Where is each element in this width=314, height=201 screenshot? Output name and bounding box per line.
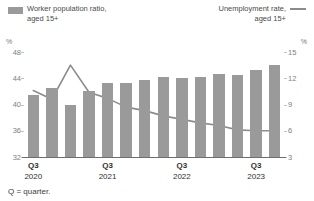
bar (65, 105, 77, 158)
plot-area: 48444036321512963 (24, 52, 284, 157)
x-axis-baseline (22, 157, 286, 158)
left-axis-tickmark (21, 78, 24, 79)
chart-figure: Worker population ratio, aged 15+ Unempl… (0, 0, 314, 201)
x-axis-label-year: 2021 (86, 171, 130, 182)
right-axis-tickmark (284, 52, 287, 53)
left-axis-tick-36: 36 (13, 127, 21, 134)
bar (195, 77, 207, 157)
bar (269, 65, 281, 157)
footnote: Q = quarter. (8, 187, 50, 196)
bar (139, 80, 151, 157)
x-axis-label-year: 2022 (160, 171, 204, 182)
x-axis-label-year: 2020 (11, 171, 55, 182)
x-axis-label: Q32020 (11, 160, 55, 182)
legend-item-unemployment-rate: Unemployment rate, aged 15+ (218, 4, 306, 24)
right-axis-tick-6: 6 (288, 127, 292, 134)
legend-label-line1: Worker population ratio, (27, 4, 107, 13)
right-axis-tickmark (284, 105, 287, 106)
bar (120, 83, 132, 157)
bar (83, 91, 95, 157)
x-axis-label-year: 2023 (234, 171, 278, 182)
bar (102, 83, 114, 157)
legend-label-line2: aged 15+ (27, 14, 59, 23)
chart-legend: Worker population ratio, aged 15+ Unempl… (0, 4, 314, 34)
x-axis-label-quarter: Q3 (86, 160, 130, 171)
bar (28, 95, 40, 157)
bar (213, 74, 225, 157)
left-axis-unit: % (6, 38, 12, 45)
right-axis-tick-9: 9 (288, 101, 292, 108)
bar-swatch-icon (8, 7, 23, 14)
right-axis-tick-15: 15 (288, 49, 296, 56)
left-axis-tickmark (21, 105, 24, 106)
left-axis-tickmark (21, 131, 24, 132)
legend-label-line1: Unemployment rate, (218, 4, 286, 13)
x-axis-label-quarter: Q3 (234, 160, 278, 171)
right-axis-tickmark (284, 131, 287, 132)
bar (176, 78, 188, 157)
unemployment-rate-line (24, 52, 284, 157)
legend-label-unemployment-rate: Unemployment rate, aged 15+ (218, 4, 286, 24)
x-axis-label: Q32022 (160, 160, 204, 182)
bar (158, 77, 170, 157)
x-axis-label: Q32023 (234, 160, 278, 182)
left-axis-tick-48: 48 (13, 49, 21, 56)
left-axis-tick-40: 40 (13, 101, 21, 108)
right-axis-unit: % (301, 38, 307, 45)
right-axis-tickmark (284, 78, 287, 79)
legend-item-worker-population-ratio: Worker population ratio, aged 15+ (8, 4, 107, 24)
left-axis-tick-44: 44 (13, 75, 21, 82)
legend-label-line2: aged 15+ (255, 14, 287, 23)
bar (250, 70, 262, 157)
left-axis-tickmark (21, 52, 24, 53)
x-axis-label-quarter: Q3 (11, 160, 55, 171)
legend-label-worker-population-ratio: Worker population ratio, aged 15+ (27, 4, 107, 24)
x-axis-label: Q32021 (86, 160, 130, 182)
line-swatch-icon (290, 8, 306, 10)
bar (232, 75, 244, 157)
right-axis-tick-12: 12 (288, 75, 296, 82)
bar (46, 88, 58, 157)
x-axis-label-quarter: Q3 (160, 160, 204, 171)
right-axis-tick-3: 3 (288, 154, 292, 161)
